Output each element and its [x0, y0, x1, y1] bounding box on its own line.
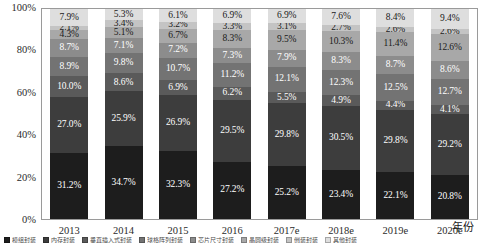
bar-segment[interactable]: 6.9% [268, 9, 306, 23]
bar-segment[interactable]: 8.7% [50, 39, 88, 57]
bar-segment[interactable]: 6.1% [159, 9, 197, 22]
x-axis-tick: 2014 [105, 225, 143, 236]
bar-segment[interactable]: 3.4% [105, 20, 143, 27]
legend-swatch [82, 237, 88, 243]
legend-item[interactable]: 球格阵列封装 [139, 237, 183, 243]
bar-segment[interactable]: 8.7% [376, 56, 414, 74]
legend-swatch [4, 237, 10, 243]
bar-segment[interactable]: 12.1% [268, 67, 306, 92]
legend-item[interactable]: 垂直插入式封装 [82, 237, 132, 243]
legend-label: 内存封装 [51, 237, 75, 243]
bar-segment[interactable]: 27.2% [213, 162, 251, 219]
bar-segment[interactable]: 7.3% [213, 48, 251, 63]
bar-segment[interactable]: 23.4% [322, 170, 360, 219]
bar-column[interactable]: 7.6%2.7%10.3%8.3%12.3%4.9%30.5%23.4% [322, 9, 360, 219]
bar-column[interactable]: 6.1%3.2%6.7%7.2%10.7%6.9%26.9%32.3% [159, 9, 197, 219]
bar-segment[interactable]: 29.8% [376, 110, 414, 173]
y-axis-tick: 0% [22, 215, 36, 225]
bar-segment[interactable]: 29.8% [268, 103, 306, 166]
bar-segment[interactable]: 6.9% [159, 80, 197, 94]
bar-segment[interactable]: 3.3% [213, 23, 251, 30]
segment-value-label: 25.2% [275, 188, 299, 198]
bar-segment[interactable]: 11.2% [213, 63, 251, 87]
bar-segment[interactable]: 3.2% [159, 22, 197, 29]
bar-segment[interactable]: 7.2% [159, 43, 197, 58]
legend-item[interactable]: 模组封装 [4, 237, 36, 243]
bar-column[interactable]: 6.9%3.1%9.5%7.9%12.1%5.5%29.8%25.2% [268, 9, 306, 219]
bar-column[interactable]: 6.9%3.3%8.3%7.3%11.2%6.2%29.5%27.2% [213, 9, 251, 219]
bar-segment[interactable]: 6.9% [213, 9, 251, 23]
segment-value-label: 6.9% [168, 83, 187, 93]
bar-segment[interactable]: 5.5% [268, 92, 306, 104]
bar-segment[interactable]: 12.3% [322, 70, 360, 96]
bar-segment[interactable]: 9.4% [431, 9, 469, 29]
bar-segment[interactable]: 27.0% [50, 97, 88, 154]
bar-column[interactable]: 7.9%2.1%4.3%8.7%8.9%10.0%27.0%31.2% [50, 9, 88, 219]
bar-column[interactable]: 9.4%2.6%12.6%8.6%12.7%4.1%29.2%20.8% [431, 9, 469, 219]
bar-segment[interactable]: 10.7% [159, 58, 197, 80]
segment-value-label: 12.3% [329, 78, 353, 88]
y-axis-tick: 20% [17, 173, 36, 183]
x-axis-tick: 2015 [159, 225, 197, 236]
bar-segment[interactable]: 7.6% [322, 9, 360, 25]
segment-value-label: 9.4% [440, 14, 459, 24]
bar-segment[interactable]: 4.9% [322, 95, 360, 105]
bar-segment[interactable]: 8.3% [322, 52, 360, 69]
legend-item[interactable]: 其他封装 [325, 237, 357, 243]
bar-segment[interactable]: 6.7% [159, 29, 197, 43]
legend-item[interactable]: 内存封装 [43, 237, 75, 243]
segment-value-label: 11.4% [384, 39, 408, 49]
legend-swatch [286, 237, 292, 243]
segment-value-label: 6.2% [223, 88, 242, 98]
x-axis-tick: 2013 [50, 225, 88, 236]
bar-segment[interactable]: 20.8% [431, 175, 469, 219]
bar-segment[interactable]: 5.3% [105, 9, 143, 20]
legend-item[interactable]: 倒装封装 [286, 237, 318, 243]
x-axis: 20132014201520162017e2018e2019e2020e [42, 222, 477, 238]
bar-segment[interactable]: 8.9% [50, 57, 88, 76]
bar-segment[interactable]: 12.6% [431, 34, 469, 60]
bar-segment[interactable]: 25.2% [268, 166, 306, 219]
bar-segment[interactable]: 34.7% [105, 146, 143, 219]
bar-segment[interactable]: 4.4% [376, 101, 414, 110]
bar-segment[interactable]: 7.9% [268, 50, 306, 67]
segment-value-label: 10.7% [166, 64, 190, 74]
segment-value-label: 3.1% [277, 23, 296, 30]
bar-segment[interactable]: 30.5% [322, 106, 360, 170]
segment-value-label: 22.1% [383, 191, 407, 201]
bar-column[interactable]: 5.3%3.4%5.1%7.1%9.8%8.6%25.9%34.7% [105, 9, 143, 219]
bar-segment[interactable]: 10.0% [50, 76, 88, 97]
bar-segment[interactable]: 12.5% [376, 74, 414, 100]
bar-segment[interactable]: 9.8% [105, 53, 143, 74]
bar-segment[interactable]: 7.1% [105, 38, 143, 53]
bar-segment[interactable]: 8.3% [213, 30, 251, 47]
bar-segment[interactable]: 9.5% [268, 30, 306, 50]
bar-segment[interactable]: 25.9% [105, 91, 143, 145]
legend-item[interactable]: 晶圆级封装 [241, 237, 279, 243]
bar-segment[interactable]: 8.6% [431, 61, 469, 79]
bar-segment[interactable]: 32.3% [159, 151, 197, 219]
bar-segment[interactable]: 4.1% [431, 105, 469, 114]
bar-segment[interactable]: 11.4% [376, 32, 414, 56]
segment-value-label: 25.9% [112, 114, 136, 124]
bar-segment[interactable]: 22.1% [376, 172, 414, 218]
bar-segment[interactable]: 12.7% [431, 79, 469, 106]
legend-item[interactable]: 芯片尺寸封装 [190, 237, 234, 243]
bar-segment[interactable]: 4.3% [50, 30, 88, 39]
bar-segment[interactable]: 26.9% [159, 95, 197, 151]
bar-segment[interactable]: 6.2% [213, 87, 251, 100]
bar-segment[interactable]: 8.4% [376, 9, 414, 27]
bar-segment[interactable]: 31.2% [50, 153, 88, 219]
bar-segment[interactable]: 29.5% [213, 100, 251, 162]
bar-segment[interactable]: 8.6% [105, 73, 143, 91]
segment-value-label: 10.0% [57, 82, 81, 92]
bar-segment[interactable]: 5.1% [105, 27, 143, 38]
legend-swatch [43, 237, 49, 243]
segment-value-label: 8.6% [114, 78, 133, 88]
segment-value-label: 12.5% [383, 83, 407, 93]
segment-value-label: 4.3% [59, 30, 78, 39]
bar-segment[interactable]: 7.9% [50, 9, 88, 26]
bar-column[interactable]: 8.4%2.6%11.4%8.7%12.5%4.4%29.8%22.1% [376, 9, 414, 219]
bar-segment[interactable]: 10.3% [322, 31, 360, 53]
bar-segment[interactable]: 29.2% [431, 114, 469, 175]
